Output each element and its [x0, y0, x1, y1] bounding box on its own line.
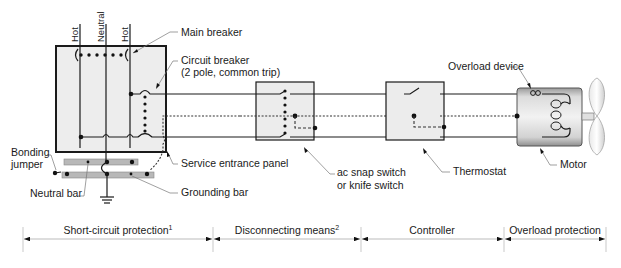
section-dimension-bar: Short-circuit protection1 Disconnecting … — [23, 224, 606, 252]
service-entrance-label: Service entrance panel — [181, 157, 288, 169]
service-entrance-panel: Hot Neutral Hot — [53, 11, 240, 203]
neutral-bar-label: Neutral bar — [30, 187, 82, 199]
motor — [515, 78, 605, 155]
grounding-bar-label: Grounding bar — [181, 186, 249, 198]
switch-label-2: or knife switch — [337, 179, 404, 191]
motor-label: Motor — [560, 158, 587, 170]
circuit-breaker-label-1: Circuit breaker — [181, 54, 250, 66]
circuit-breaker-label-2: (2 pole, common trip) — [181, 66, 280, 78]
main-breaker-label: Main breaker — [181, 26, 243, 38]
section-disconnecting: Disconnecting means2 — [235, 224, 339, 236]
motor-circuit-diagram: Hot Neutral Hot Main breaker Circuit bre… — [0, 0, 621, 268]
switch-label-1: ac snap switch — [337, 166, 406, 178]
section-controller: Controller — [409, 224, 455, 236]
bonding-jumper-label-1: Bonding — [11, 146, 50, 158]
bonding-jumper-label-2: jumper — [10, 158, 44, 170]
overload-device-label: Overload device — [448, 60, 524, 72]
neutral-bar — [64, 159, 138, 165]
neutral-label: Neutral — [95, 11, 106, 42]
section-short-circuit: Short-circuit protection1 — [64, 224, 173, 236]
section-overload: Overload protection — [509, 224, 601, 236]
hot-label-2: Hot — [119, 27, 130, 42]
hot-label-1: Hot — [69, 27, 80, 42]
thermostat-label: Thermostat — [453, 165, 506, 177]
